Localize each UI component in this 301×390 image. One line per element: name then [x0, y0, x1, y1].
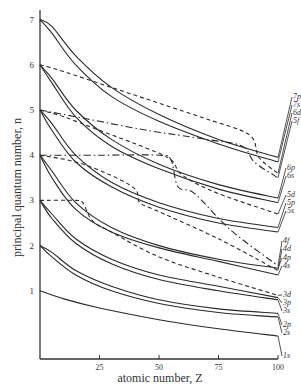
y-tick-label: 6 — [30, 60, 35, 70]
curve-label-4s: 4s — [283, 261, 290, 270]
curve-4f — [40, 155, 278, 266]
x-tick-label: 100 — [272, 363, 284, 372]
curve-label-1s: 1s — [283, 351, 290, 360]
chart-canvas: 2550751001234567 7p7s6d5f6p6s5d5p5s4f4d4… — [0, 0, 301, 390]
y-axis-label: principal quantum number, n — [10, 113, 25, 263]
curve-labels: 7p7s6d5f6p6s5d5p5s4f4d4p4s3d3p3s2p2s1s — [278, 92, 301, 360]
curves — [40, 20, 278, 336]
curve-3s — [40, 200, 278, 299]
curve-label-3s: 3s — [282, 306, 290, 315]
curve-6d — [40, 65, 278, 174]
curve-4p — [40, 155, 278, 268]
curve-1s — [40, 291, 278, 336]
curve-label-5s: 5s — [287, 206, 294, 215]
curve-5f — [40, 110, 278, 178]
y-tick-label: 4 — [30, 150, 35, 160]
curve-label-5f: 5f — [293, 116, 301, 125]
y-tick-label: 5 — [30, 105, 35, 115]
curve-label-6s: 6s — [287, 171, 294, 180]
curve-5s — [40, 110, 278, 232]
curve-label-2s: 2s — [283, 328, 290, 337]
curve-3p — [40, 200, 278, 297]
leader-line — [278, 105, 292, 162]
curve-label-4d: 4d — [283, 244, 292, 253]
y-tick-label: 3 — [30, 195, 35, 205]
y-tick-label: 2 — [30, 241, 35, 251]
curve-7p — [40, 20, 278, 158]
curve-7s — [40, 20, 278, 162]
leader-line — [278, 336, 282, 356]
x-axis-label: atomic number, Z — [95, 371, 225, 386]
y-tick-label: 7 — [30, 15, 35, 25]
y-tick-label: 1 — [30, 286, 35, 296]
curve-6s — [40, 65, 278, 203]
curve-4d — [40, 155, 278, 270]
